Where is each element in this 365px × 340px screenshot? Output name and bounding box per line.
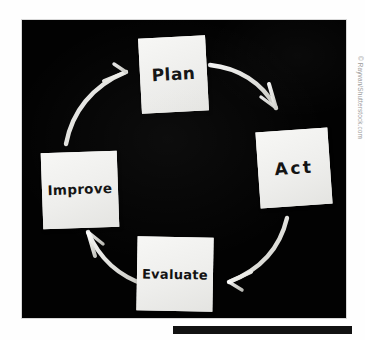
cycle-diagram-photo: Plan Act Evaluate Improve	[22, 20, 346, 318]
node-label-act: Act	[274, 158, 314, 178]
arrow-plan-to-act	[210, 65, 276, 108]
node-label-plan: Plan	[151, 65, 196, 84]
arrow-act-to-evaluate	[229, 218, 287, 290]
footer-rule	[173, 326, 352, 334]
node-card-improve[interactable]: Improve	[41, 151, 120, 230]
node-card-plan[interactable]: Plan	[138, 35, 209, 113]
node-card-evaluate[interactable]: Evaluate	[136, 236, 213, 311]
node-card-act[interactable]: Act	[255, 128, 332, 209]
page-canvas: Plan Act Evaluate Improve © Rayvan/Shutt…	[0, 0, 365, 340]
node-label-evaluate: Evaluate	[142, 267, 208, 281]
copyright-watermark: © Rayvan/Shutterstock.com	[357, 56, 364, 186]
arrow-improve-to-plan	[66, 64, 126, 144]
node-label-improve: Improve	[47, 182, 112, 198]
